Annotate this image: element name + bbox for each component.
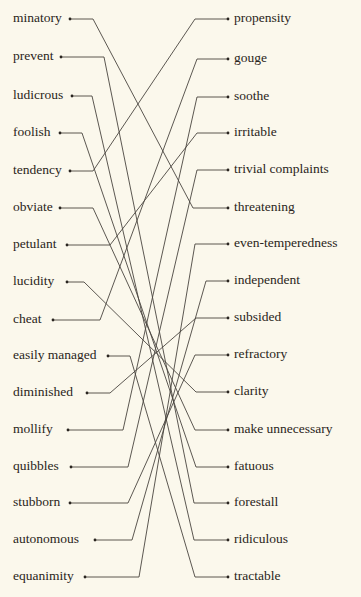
right-term-subsided: subsided bbox=[234, 309, 281, 325]
right-term-fatuous: fatuous bbox=[234, 458, 274, 474]
right-term-forestall: forestall bbox=[234, 494, 278, 510]
endpoint-dot-icon bbox=[227, 502, 230, 505]
left-term-diminished: diminished bbox=[13, 384, 73, 400]
right-term-gouge: gouge bbox=[234, 50, 267, 66]
right-term-even-temperedness: even-temperedness bbox=[234, 235, 337, 251]
left-term-quibbles: quibbles bbox=[13, 458, 59, 474]
endpoint-dot-icon bbox=[227, 317, 230, 320]
connector-foolish-to-fatuous bbox=[60, 133, 228, 467]
endpoint-dot-icon bbox=[86, 392, 89, 395]
endpoint-dot-icon bbox=[59, 132, 62, 135]
left-term-tendency: tendency bbox=[13, 162, 62, 178]
endpoint-dot-icon bbox=[227, 466, 230, 469]
right-term-refractory: refractory bbox=[234, 346, 287, 362]
left-term-minatory: minatory bbox=[13, 10, 62, 26]
endpoint-dot-icon bbox=[227, 58, 230, 61]
right-term-propensity: propensity bbox=[234, 10, 291, 26]
endpoint-dot-icon bbox=[227, 243, 230, 246]
endpoint-dot-icon bbox=[227, 132, 230, 135]
endpoint-dot-icon bbox=[227, 576, 230, 579]
connector-minatory-to-threatening bbox=[70, 19, 228, 208]
connector-autonomous-to-independent bbox=[95, 281, 228, 540]
endpoint-dot-icon bbox=[69, 18, 72, 21]
left-term-foolish: foolish bbox=[13, 124, 51, 140]
endpoint-dot-icon bbox=[227, 391, 230, 394]
endpoint-dot-icon bbox=[66, 244, 69, 247]
endpoint-dot-icon bbox=[227, 18, 230, 21]
endpoint-dot-icon bbox=[227, 207, 230, 210]
left-term-cheat: cheat bbox=[13, 311, 41, 327]
right-term-ridiculous: ridiculous bbox=[234, 531, 288, 547]
left-term-lucidity: lucidity bbox=[13, 273, 54, 289]
endpoint-dot-icon bbox=[107, 355, 110, 358]
endpoint-dot-icon bbox=[60, 56, 63, 59]
right-term-independent: independent bbox=[234, 272, 300, 288]
endpoint-dot-icon bbox=[227, 169, 230, 172]
matching-diagram: minatorypreventludicrousfoolishtendencyo… bbox=[0, 0, 361, 597]
left-term-obviate: obviate bbox=[13, 199, 53, 215]
endpoint-dot-icon bbox=[94, 539, 97, 542]
left-term-equanimity: equanimity bbox=[13, 568, 74, 584]
endpoint-dot-icon bbox=[227, 280, 230, 283]
connector-easily-managed-to-tractable bbox=[108, 356, 228, 577]
endpoint-dot-icon bbox=[70, 466, 73, 469]
endpoint-dot-icon bbox=[59, 207, 62, 210]
left-term-stubborn: stubborn bbox=[13, 494, 60, 510]
right-term-soothe: soothe bbox=[234, 88, 269, 104]
endpoint-dot-icon bbox=[227, 429, 230, 432]
right-term-threatening: threatening bbox=[234, 199, 295, 215]
endpoint-dot-icon bbox=[84, 576, 87, 579]
left-term-ludicrous: ludicrous bbox=[13, 87, 63, 103]
connector-tendency-to-propensity bbox=[70, 19, 228, 171]
endpoint-dot-icon bbox=[227, 539, 230, 542]
right-term-clarity: clarity bbox=[234, 383, 268, 399]
connector-petulant-to-irritable bbox=[67, 133, 228, 245]
endpoint-dot-icon bbox=[69, 502, 72, 505]
right-term-trivial-complaints: trivial complaints bbox=[234, 161, 329, 177]
endpoint-dot-icon bbox=[67, 429, 70, 432]
connector-prevent-to-forestall bbox=[61, 57, 228, 503]
endpoint-dot-icon bbox=[52, 319, 55, 322]
endpoint-dot-icon bbox=[71, 95, 74, 98]
connector-cheat-to-gouge bbox=[53, 59, 228, 320]
endpoint-dot-icon bbox=[227, 354, 230, 357]
endpoint-dot-icon bbox=[69, 170, 72, 173]
left-term-easily-managed: easily managed bbox=[13, 347, 97, 363]
right-term-tractable: tractable bbox=[234, 568, 280, 584]
endpoint-dot-icon bbox=[66, 281, 69, 284]
right-term-make-unnecessary: make unnecessary bbox=[234, 421, 333, 437]
left-term-mollify: mollify bbox=[13, 421, 53, 437]
connector-equanimity-to-even-temperedness bbox=[85, 244, 228, 577]
endpoint-dot-icon bbox=[227, 96, 230, 99]
right-term-irritable: irritable bbox=[234, 124, 277, 140]
left-term-petulant: petulant bbox=[13, 236, 57, 252]
left-term-prevent: prevent bbox=[13, 48, 53, 64]
left-term-autonomous: autonomous bbox=[13, 531, 79, 547]
